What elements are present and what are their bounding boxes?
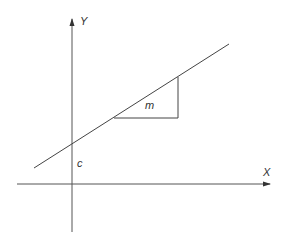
y-axis-label: Y bbox=[80, 15, 88, 27]
x-axis-label: X bbox=[262, 166, 271, 178]
gradient-label: m bbox=[145, 99, 154, 111]
straight-line bbox=[34, 44, 229, 168]
intercept-label: c bbox=[77, 157, 83, 169]
line-graph-diagram: Y X m c bbox=[0, 0, 286, 248]
gradient-triangle bbox=[114, 77, 178, 118]
